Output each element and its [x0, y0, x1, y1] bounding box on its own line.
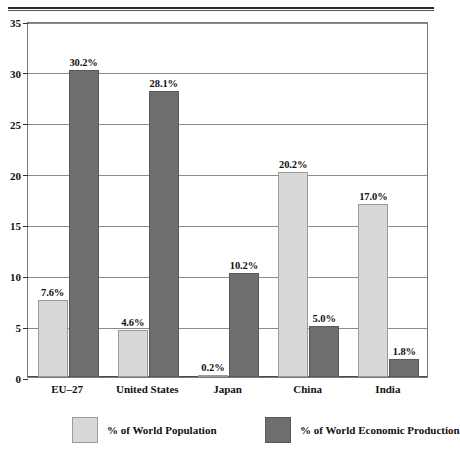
bar-group: 20.2%5.0%: [269, 23, 349, 377]
legend-label: % of World Population: [107, 424, 217, 436]
legend-swatch-population: [72, 417, 98, 443]
chart-legend: % of World Population% of World Economic…: [27, 415, 428, 449]
bar-group: 0.2%10.2%: [188, 23, 268, 377]
bar-value-label: 7.6%: [41, 287, 64, 298]
caption-rule-top-thin: [8, 10, 434, 11]
bar-value-label: 28.1%: [150, 78, 178, 89]
bar-value-label: 4.6%: [121, 317, 144, 328]
x-axis-label-4: China: [293, 383, 322, 395]
bar-value-label: 30.2%: [69, 57, 97, 68]
bar-population: 7.6%: [38, 300, 68, 377]
bar-group: 7.6%30.2%: [28, 23, 108, 377]
y-axis-label-20: 20: [10, 170, 21, 181]
bar-group: 17.0%1.8%: [349, 23, 429, 377]
y-axis-label-0: 0: [16, 374, 22, 385]
bar-value-label: 0.2%: [201, 362, 224, 373]
y-axis-label-5: 5: [16, 323, 22, 334]
y-axis-label-15: 15: [10, 221, 21, 232]
bar-population: 20.2%: [278, 172, 308, 377]
bar-population: 17.0%: [358, 204, 388, 377]
bar-production: 1.8%: [389, 359, 419, 377]
y-axis-label-25: 25: [10, 119, 21, 130]
bar-group: 4.6%28.1%: [108, 23, 188, 377]
x-axis-label-1: EU–27: [51, 383, 83, 395]
bar-production: 10.2%: [229, 273, 259, 377]
bar-value-label: 17.0%: [359, 191, 387, 202]
bar-value-label: 10.2%: [230, 260, 258, 271]
bar-value-label: 5.0%: [313, 313, 336, 324]
y-axis-label-30: 30: [10, 68, 21, 79]
bar-population: 0.2%: [198, 375, 228, 377]
x-axis-category-labels: EU–27United StatesJapanChinaIndia: [27, 383, 428, 403]
bar-value-label: 20.2%: [279, 159, 307, 170]
bar-population: 4.6%: [118, 330, 148, 377]
y-tick-0: [23, 379, 28, 380]
plot-area: 051015202530357.6%30.2%4.6%28.1%0.2%10.2…: [27, 22, 428, 378]
legend-item-production: % of World Economic Production: [265, 417, 460, 443]
bar-production: 30.2%: [69, 70, 99, 377]
legend-item-population: % of World Population: [72, 417, 217, 443]
caption-rule-top: [8, 7, 434, 9]
y-axis-label-10: 10: [10, 272, 21, 283]
x-axis-label-5: India: [375, 383, 400, 395]
y-axis-label-35: 35: [10, 18, 21, 29]
bar-production: 28.1%: [149, 91, 179, 377]
x-axis-label-3: Japan: [213, 383, 242, 395]
legend-label: % of World Economic Production: [300, 424, 460, 436]
bar-value-label: 1.8%: [393, 346, 416, 357]
bar-production: 5.0%: [309, 326, 339, 377]
x-axis-label-2: United States: [116, 383, 179, 395]
legend-swatch-production: [265, 417, 291, 443]
